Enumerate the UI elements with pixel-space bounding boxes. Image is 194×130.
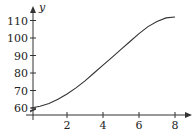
y-tick-label: 100: [7, 32, 28, 45]
data-curve: [31, 17, 175, 108]
y-axis: [30, 6, 36, 120]
y-tick-label: 70: [14, 85, 28, 98]
x-axis-arrow-icon: [185, 112, 192, 118]
x-axis: [26, 112, 192, 118]
x-tick-label: 8: [172, 119, 179, 130]
y-tick-label: 60: [14, 102, 28, 115]
y-axis-arrow-icon: [30, 6, 36, 13]
y-tick-label: 80: [14, 67, 28, 80]
y-ticks: 60708090100110: [7, 15, 36, 116]
x-tick-label: 2: [64, 119, 71, 130]
y-tick-label: 90: [14, 50, 28, 63]
y-axis-label: y: [38, 1, 46, 14]
x-tick-label: 6: [136, 119, 143, 130]
line-chart: y 60708090100110 2468: [0, 0, 194, 130]
y-tick-label: 110: [7, 15, 28, 28]
x-tick-label: 4: [100, 119, 107, 130]
